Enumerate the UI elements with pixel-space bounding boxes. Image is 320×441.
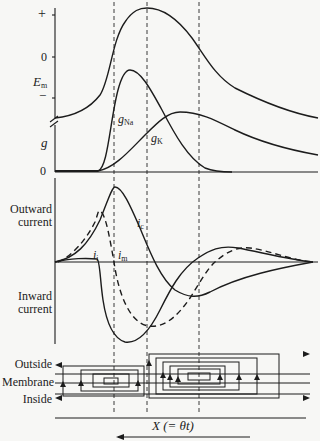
membrane-label: Membrane <box>0 376 54 388</box>
outside-label: Outside <box>0 358 52 370</box>
gk-label: gK <box>151 132 163 148</box>
ic-label: ic <box>137 217 144 233</box>
g-axis-label: g <box>41 137 48 149</box>
im-label: im <box>118 249 128 265</box>
x-axis-label: X (= θt) <box>152 420 194 432</box>
y-tick-minus: − <box>39 90 46 102</box>
inside-label: Inside <box>0 393 52 405</box>
ii-label: ii <box>93 249 99 265</box>
ic-current-curve <box>55 187 313 296</box>
membrane-circuit-lines <box>55 354 310 398</box>
outward-current-label: Outwardcurrent <box>4 203 52 229</box>
em-letter: E <box>33 74 41 89</box>
inward-current-label: Inwardcurrent <box>4 290 52 316</box>
membrane-potential-curve <box>55 8 318 118</box>
g-zero-tick: 0 <box>40 165 46 177</box>
y-tick-zero: 0 <box>41 51 47 63</box>
gna-label: gNa <box>118 113 133 129</box>
dashed-reference-lines <box>114 2 199 412</box>
direction-arrow <box>116 434 250 440</box>
y-tick-plus: + <box>38 8 46 20</box>
